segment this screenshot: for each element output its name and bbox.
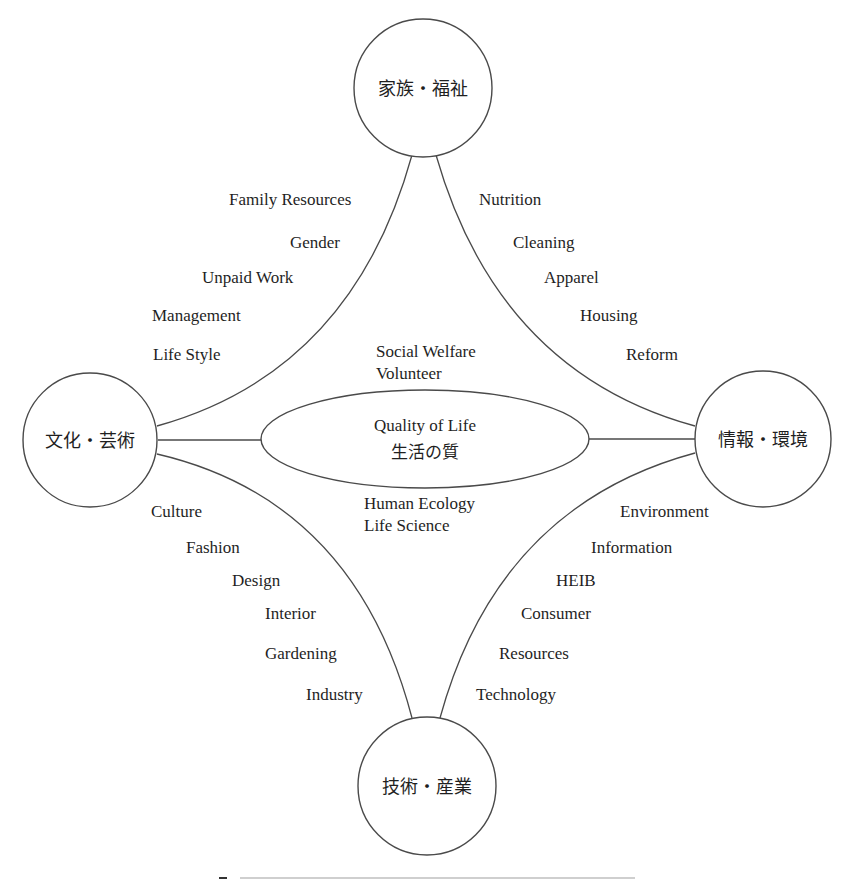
branch-label: Interior	[265, 604, 316, 623]
center-above-2: Volunteer	[376, 364, 442, 383]
node-bottom: 技術・産業	[358, 717, 496, 855]
branch-label: Environment	[620, 502, 709, 521]
branch-label: Fashion	[186, 538, 240, 557]
center-above-1: Social Welfare	[376, 342, 476, 361]
center-below-2: Life Science	[364, 516, 449, 535]
branch-label: Apparel	[544, 268, 599, 287]
branch-label: Gardening	[265, 644, 337, 663]
branch-label: HEIB	[556, 571, 596, 590]
branch-label: Industry	[306, 685, 363, 704]
center-below-1: Human Ecology	[364, 494, 475, 513]
branch-label: Cleaning	[513, 233, 575, 252]
edge-top-right	[436, 155, 695, 426]
branch-label: Design	[232, 571, 281, 590]
branch-label: Family Resources	[229, 190, 351, 209]
branch-label: Housing	[580, 306, 638, 325]
branch-label: Life Style	[153, 345, 221, 364]
node-top-label: 家族・福祉	[378, 79, 468, 99]
branch-label: Culture	[151, 502, 202, 521]
center-label-en: Quality of Life	[374, 416, 476, 435]
center-label-ja: 生活の質	[391, 443, 459, 462]
branch-label: Reform	[626, 345, 678, 364]
node-right: 情報・環境	[695, 371, 831, 507]
branch-label: Technology	[476, 685, 557, 704]
branch-label: Gender	[290, 233, 340, 252]
branch-label: Resources	[499, 644, 569, 663]
node-top: 家族・福祉	[354, 19, 492, 157]
node-left-label: 文化・芸術	[45, 431, 135, 451]
node-left: 文化・芸術	[23, 373, 157, 507]
branch-label: Management	[152, 306, 241, 325]
node-right-label: 情報・環境	[718, 430, 808, 450]
node-center: Quality of Life 生活の質	[261, 390, 589, 488]
node-bottom-label: 技術・産業	[382, 777, 472, 797]
branch-label: Unpaid Work	[202, 268, 294, 287]
qol-diagram: 家族・福祉 文化・芸術 情報・環境 技術・産業 Quality of Life …	[0, 0, 858, 879]
branch-label: Nutrition	[479, 190, 542, 209]
branch-label: Information	[591, 538, 673, 557]
branch-label: Consumer	[521, 604, 591, 623]
